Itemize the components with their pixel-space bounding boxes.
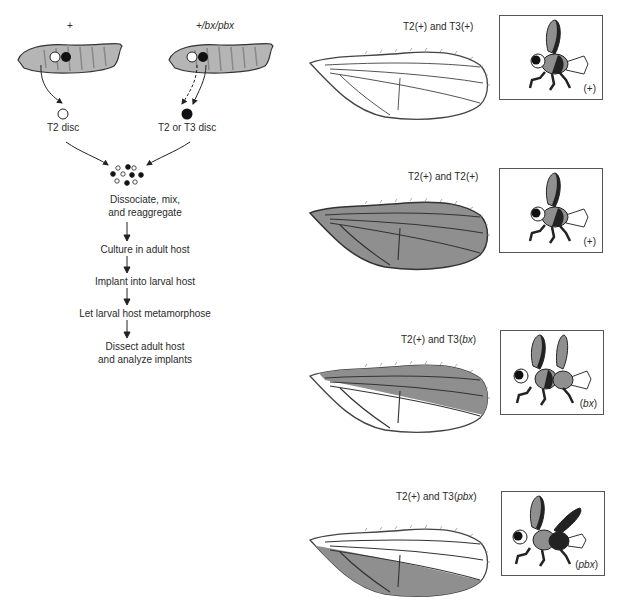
wing-all-white-icon — [305, 45, 495, 125]
genotype-label: (bx) — [580, 398, 597, 409]
fly-panel: (+) — [499, 168, 603, 253]
row-title: T2(+) and T2(+) — [408, 171, 478, 182]
row-title: T2(+) and T3(+) — [403, 21, 473, 32]
fly-panel: (pbx) — [501, 491, 605, 576]
genotype-label: (pbx) — [575, 559, 598, 570]
genotype-label: (+) — [584, 83, 597, 94]
genotype-label: (+) — [584, 236, 597, 247]
row-title: T2(+) and T3(pbx) — [396, 491, 477, 502]
wing-anterior-gray-icon — [305, 358, 495, 438]
step-arrows — [0, 0, 300, 360]
fly-panel: (bx) — [500, 330, 604, 415]
fly-panel: (+) — [499, 15, 603, 100]
wing-posterior-gray-icon — [305, 522, 495, 602]
row-title: T2(+) and T3(bx) — [401, 334, 476, 345]
wing-all-gray-icon — [305, 195, 495, 275]
